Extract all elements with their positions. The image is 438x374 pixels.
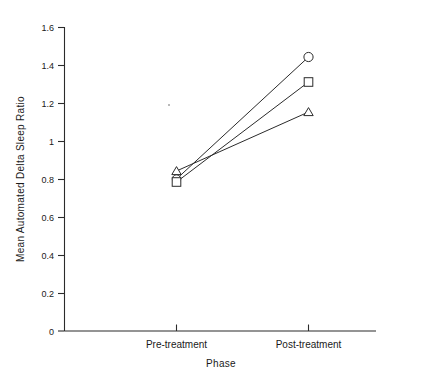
y-tick-label-1_4: 1.4: [41, 61, 54, 71]
y-axis-title: Mean Automated Delta Sleep Ratio: [15, 96, 26, 262]
series-square: [172, 78, 313, 187]
data-point-square-pre: [172, 178, 181, 187]
x-axis-title: Phase: [206, 358, 236, 369]
x-tick-label-pre-treatment: Pre-treatment: [146, 339, 207, 350]
y-tick-label-0_8: 0.8: [41, 175, 54, 185]
chart-figure: 1.6 1.4 1.2 1 0.8 0.6 0.4 0.2 0 Pre-trea…: [0, 0, 438, 374]
y-tick-label-1: 1: [49, 137, 54, 147]
x-tick-label-post-treatment: Post-treatment: [276, 339, 342, 350]
y-tick-label-0_2: 0.2: [41, 289, 54, 299]
data-point-circle-post: [304, 52, 313, 61]
y-tick-label-0_6: 0.6: [41, 213, 54, 223]
y-axis-ticks: [58, 28, 65, 332]
scan-speck: [168, 104, 170, 106]
y-tick-label-1_6: 1.6: [41, 23, 54, 33]
data-point-square-post: [304, 78, 313, 87]
y-tick-label-0_4: 0.4: [41, 251, 54, 261]
x-axis-ticks: [177, 325, 309, 332]
data-point-triangle-post: [304, 108, 313, 116]
y-tick-label-1_2: 1.2: [41, 99, 54, 109]
line-chart-canvas: 1.6 1.4 1.2 1 0.8 0.6 0.4 0.2 0 Pre-trea…: [0, 0, 438, 374]
y-axis-tick-labels: 1.6 1.4 1.2 1 0.8 0.6 0.4 0.2 0: [41, 23, 54, 337]
y-tick-label-0: 0: [49, 327, 54, 337]
data-point-triangle-pre: [172, 167, 181, 175]
